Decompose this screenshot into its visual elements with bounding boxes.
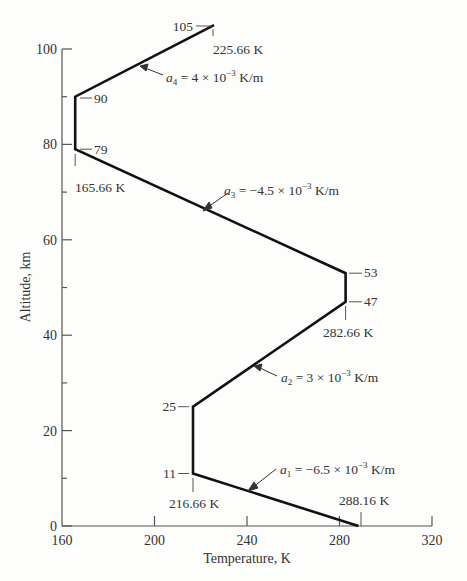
y-axis-title: Altitude, km (18, 252, 33, 323)
temperature-label: 225.66 K (213, 42, 264, 57)
x-tick: 200 (144, 533, 165, 548)
annotation-arrows (140, 64, 277, 491)
altitude-label: 105 (173, 19, 194, 34)
altitude-label: 53 (364, 265, 378, 280)
temperature-label: 165.66 K (75, 180, 126, 195)
temperature-labels: 288.16 K 216.66 K 282.66 K 165.66 K 225.… (75, 42, 390, 511)
x-tick: 320 (422, 533, 443, 548)
leader-lines (75, 26, 362, 526)
y-tick: 100 (36, 42, 57, 57)
temperature-label: 282.66 K (323, 325, 374, 340)
altitude-label: 25 (163, 399, 177, 414)
altitude-labels: 11 25 47 53 79 90 105 (94, 19, 378, 481)
temperature-label: 216.66 K (169, 496, 220, 511)
chart: 0 20 40 60 80 100 160 200 240 280 320 Te… (0, 0, 467, 581)
altitude-label: 79 (94, 142, 108, 157)
y-tick: 80 (43, 137, 57, 152)
x-axis-title: Temperature, K (203, 551, 291, 566)
y-tick: 0 (50, 519, 57, 534)
altitude-label: 47 (364, 294, 378, 309)
annotation-a1: a1 = −6.5 × 10−3 K/m (280, 460, 395, 479)
temperature-profile-line (75, 25, 358, 526)
axes (62, 49, 432, 526)
x-tick: 160 (52, 533, 73, 548)
altitude-label: 90 (94, 91, 108, 106)
altitude-label: 11 (163, 466, 176, 481)
annotation-a4: a4 = 4 × 10−3 K/m (166, 68, 264, 87)
x-tick: 240 (237, 533, 258, 548)
annotation-a2: a2 = 3 × 10−3 K/m (281, 368, 379, 387)
y-tick-labels: 0 20 40 60 80 100 (36, 42, 57, 534)
x-tick: 280 (329, 533, 350, 548)
y-tick: 20 (43, 424, 57, 439)
y-tick: 60 (43, 233, 57, 248)
temperature-label: 288.16 K (339, 493, 390, 508)
annotation-a3: a3 = −4.5 × 10−3 K/m (224, 181, 339, 200)
y-tick: 40 (43, 328, 57, 343)
x-tick-labels: 160 200 240 280 320 (52, 533, 443, 548)
